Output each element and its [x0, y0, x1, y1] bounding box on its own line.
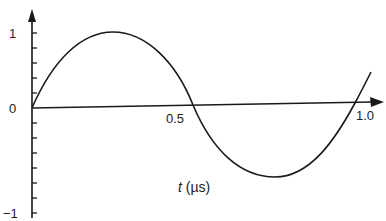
- y-axis-arrow-icon: [28, 9, 36, 22]
- x-label-0.5: 0.5: [166, 111, 184, 126]
- y-label-neg1: −1: [3, 206, 18, 221]
- y-label-1: 1: [9, 26, 16, 41]
- x-axis-arrow-icon: [370, 97, 384, 107]
- y-label-0: 0: [9, 101, 16, 116]
- x-axis-unit: (µs): [182, 179, 210, 195]
- x-label-1.0: 1.0: [356, 108, 374, 123]
- x-axis-title: t (µs): [178, 179, 210, 195]
- x-axis: [32, 102, 372, 108]
- sine-wave-chart: 1 0 −1 0.5 1.0 t (µs): [0, 0, 386, 221]
